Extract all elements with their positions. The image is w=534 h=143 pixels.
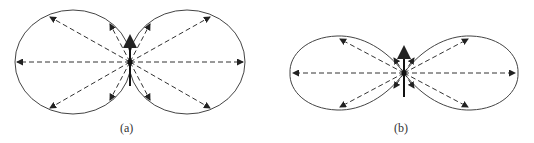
figure-a: (a) <box>0 0 267 143</box>
caption-b: (b) <box>394 121 408 136</box>
figure-b: (b) <box>267 0 534 143</box>
dipole-center <box>402 71 407 76</box>
caption-a: (a) <box>120 121 133 136</box>
radiation-pattern-a <box>0 0 267 143</box>
dipole-center <box>128 60 133 65</box>
